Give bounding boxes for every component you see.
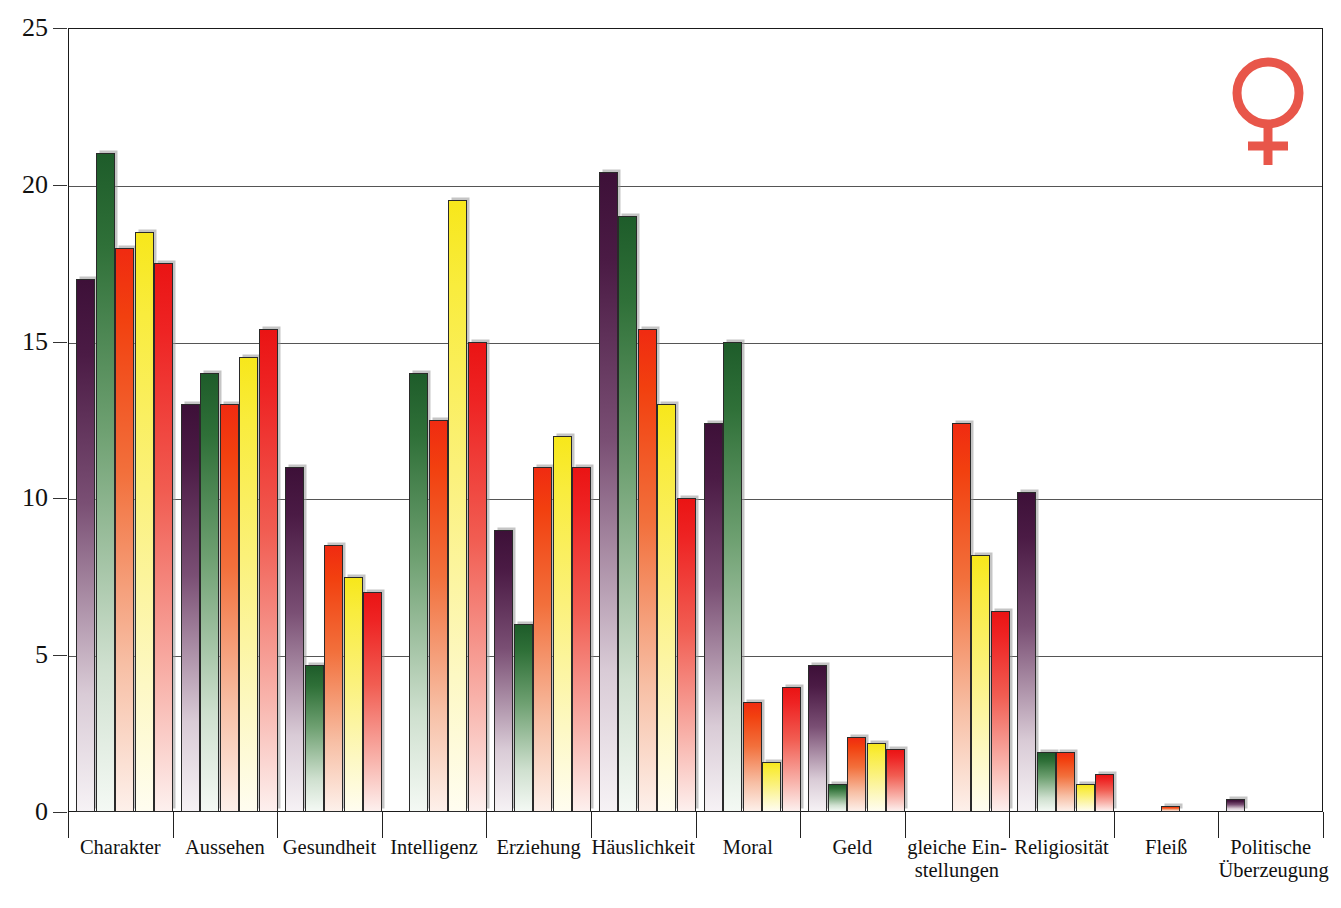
- x-axis-label-7: Geld: [800, 836, 905, 859]
- x-tick-10: [1114, 812, 1115, 838]
- bar-0-2[interactable]: [115, 248, 134, 812]
- bar-2-1[interactable]: [305, 665, 324, 812]
- bar-7-3[interactable]: [867, 743, 886, 812]
- bar-group-6: [696, 0, 801, 812]
- bar-10-2[interactable]: [1161, 806, 1180, 812]
- bar-9-3[interactable]: [1076, 784, 1095, 812]
- x-tick-11: [1218, 812, 1219, 838]
- x-axis-label-4: Erziehung: [486, 836, 591, 859]
- x-axis-label-2: Gesundheit: [277, 836, 382, 859]
- bar-9-1[interactable]: [1037, 752, 1056, 812]
- bar-0-1[interactable]: [96, 153, 115, 812]
- x-axis-label-1: Aussehen: [173, 836, 278, 859]
- y-tick-label-20: 20: [22, 170, 48, 200]
- bar-2-2[interactable]: [324, 545, 343, 812]
- y-tick-mark-10: [53, 498, 67, 499]
- bar-8-2[interactable]: [952, 423, 971, 812]
- y-tick-label-15: 15: [22, 327, 48, 357]
- bar-group-11: [1218, 0, 1323, 812]
- bar-group-4: [486, 0, 591, 812]
- x-axis-label-9: Religiosität: [1009, 836, 1114, 859]
- x-tick-2: [277, 812, 278, 838]
- bar-4-0[interactable]: [494, 530, 513, 812]
- y-tick-mark-15: [53, 342, 67, 343]
- bar-5-0[interactable]: [599, 172, 618, 812]
- y-tick-label-0: 0: [35, 797, 48, 827]
- bar-1-1[interactable]: [200, 373, 219, 812]
- bar-0-3[interactable]: [135, 232, 154, 812]
- y-tick-label-25: 25: [22, 13, 48, 43]
- bar-4-3[interactable]: [553, 436, 572, 812]
- x-axis-label-6: Moral: [696, 836, 801, 859]
- bar-6-3[interactable]: [762, 762, 781, 812]
- bar-group-8: [905, 0, 1010, 812]
- bar-group-5: [591, 0, 696, 812]
- bar-group-10: [1114, 0, 1219, 812]
- y-tick-label-5: 5: [35, 640, 48, 670]
- bar-3-3[interactable]: [448, 200, 467, 812]
- bar-7-0[interactable]: [808, 665, 827, 812]
- bar-7-1[interactable]: [828, 784, 847, 812]
- x-tick-9: [1009, 812, 1010, 838]
- x-axis-label-11: Politische Überzeugung: [1218, 836, 1323, 882]
- x-tick-1: [173, 812, 174, 838]
- bar-1-2[interactable]: [220, 404, 239, 812]
- x-tick-0: [68, 812, 69, 838]
- bar-5-3[interactable]: [657, 404, 676, 812]
- bar-7-4[interactable]: [886, 749, 905, 812]
- bar-7-2[interactable]: [847, 737, 866, 812]
- x-tick-8: [905, 812, 906, 838]
- bar-1-3[interactable]: [239, 357, 258, 812]
- bar-group-2: [277, 0, 382, 812]
- bar-2-3[interactable]: [344, 577, 363, 812]
- bar-1-0[interactable]: [181, 404, 200, 812]
- y-axis: [0, 0, 66, 908]
- bar-3-1[interactable]: [409, 373, 428, 812]
- bar-0-0[interactable]: [76, 279, 95, 812]
- x-tick-7: [800, 812, 801, 838]
- bar-group-7: [800, 0, 905, 812]
- bar-5-4[interactable]: [677, 498, 696, 812]
- bar-group-3: [382, 0, 487, 812]
- bar-8-4[interactable]: [991, 611, 1010, 812]
- chart-root: 0510152025CharakterAussehenGesundheitInt…: [0, 0, 1341, 908]
- bar-2-4[interactable]: [363, 592, 382, 812]
- bar-2-0[interactable]: [285, 467, 304, 812]
- y-tick-mark-20: [53, 185, 67, 186]
- x-tick-end: [1323, 812, 1324, 838]
- bar-3-4[interactable]: [468, 342, 487, 812]
- bar-0-4[interactable]: [154, 263, 173, 812]
- y-tick-mark-0: [53, 812, 67, 813]
- y-tick-mark-25: [53, 28, 67, 29]
- x-tick-5: [591, 812, 592, 838]
- x-axis-label-5: Häuslichkeit: [591, 836, 696, 859]
- x-axis-label-3: Intelligenz: [382, 836, 487, 859]
- bar-group-0: [68, 0, 173, 812]
- bar-6-2[interactable]: [743, 702, 762, 812]
- bar-4-4[interactable]: [572, 467, 591, 812]
- y-tick-mark-5: [53, 655, 67, 656]
- bar-11-0[interactable]: [1226, 799, 1245, 812]
- x-axis-label-8: gleiche Ein- stellungen: [905, 836, 1010, 882]
- y-tick-label-10: 10: [22, 483, 48, 513]
- x-tick-4: [486, 812, 487, 838]
- x-tick-3: [382, 812, 383, 838]
- x-axis-label-10: Fleiß: [1114, 836, 1219, 859]
- x-axis-label-0: Charakter: [68, 836, 173, 859]
- bar-group-9: [1009, 0, 1114, 812]
- bar-4-2[interactable]: [533, 467, 552, 812]
- bar-6-1[interactable]: [723, 342, 742, 812]
- bar-group-1: [173, 0, 278, 812]
- bar-1-4[interactable]: [259, 329, 278, 812]
- bar-5-2[interactable]: [638, 329, 657, 812]
- bar-6-0[interactable]: [704, 423, 723, 812]
- bar-3-2[interactable]: [429, 420, 448, 812]
- bar-8-3[interactable]: [971, 555, 990, 812]
- bar-9-0[interactable]: [1017, 492, 1036, 812]
- bar-9-2[interactable]: [1056, 752, 1075, 812]
- bar-5-1[interactable]: [618, 216, 637, 812]
- x-tick-6: [696, 812, 697, 838]
- bar-4-1[interactable]: [514, 624, 533, 812]
- bar-9-4[interactable]: [1095, 774, 1114, 812]
- bar-6-4[interactable]: [782, 687, 801, 812]
